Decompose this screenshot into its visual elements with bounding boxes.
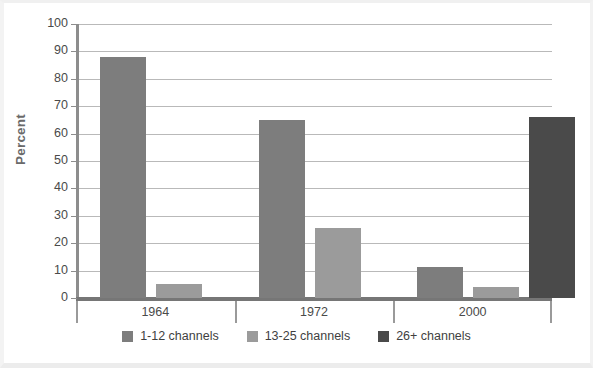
y-axis-tick-label: 0 xyxy=(28,291,68,304)
gridline xyxy=(79,188,552,189)
gridline xyxy=(79,134,552,135)
legend-item[interactable]: 26+ channels xyxy=(378,330,471,343)
y-axis-tick-mark xyxy=(71,188,77,189)
bar xyxy=(259,120,305,298)
y-axis-tick-label: 10 xyxy=(28,264,68,277)
x-axis-category-label: 1972 xyxy=(235,301,394,323)
category-divider xyxy=(393,301,395,323)
y-axis-tick-mark xyxy=(71,79,77,80)
gridline xyxy=(79,51,552,52)
y-axis-tick-label: 30 xyxy=(28,209,68,222)
legend-swatch-icon xyxy=(247,331,258,342)
legend-label: 13-25 channels xyxy=(265,330,350,343)
y-axis-tick-label: 50 xyxy=(28,154,68,167)
y-axis-tick-mark xyxy=(71,106,77,107)
bar xyxy=(417,267,463,299)
legend-item[interactable]: 13-25 channels xyxy=(247,330,350,343)
y-axis-tick-label: 90 xyxy=(28,44,68,57)
chart-page: Percent 1009080706050403020100 196419722… xyxy=(0,0,593,368)
x-axis-category-label: 1964 xyxy=(76,301,235,323)
bar xyxy=(100,57,146,298)
legend-label: 1-12 channels xyxy=(140,330,219,343)
bar xyxy=(156,284,202,298)
y-axis-line xyxy=(76,24,79,301)
y-axis-tick-label: 70 xyxy=(28,99,68,112)
plot-area: 1009080706050403020100 xyxy=(76,24,552,301)
y-axis-tick-mark xyxy=(71,24,77,25)
bar xyxy=(529,117,575,298)
chart-legend: 1-12 channels13-25 channels26+ channels xyxy=(0,330,593,343)
bar xyxy=(473,287,519,298)
legend-label: 26+ channels xyxy=(396,330,471,343)
gridline xyxy=(79,216,552,217)
y-axis-tick-label: 40 xyxy=(28,181,68,194)
legend-swatch-icon xyxy=(122,331,133,342)
bar-chart: Percent 1009080706050403020100 196419722… xyxy=(0,0,593,368)
y-axis-tick-mark xyxy=(71,134,77,135)
gridline xyxy=(79,79,552,80)
gridline xyxy=(79,161,552,162)
x-axis-category-label: 2000 xyxy=(393,301,552,323)
gridline xyxy=(79,106,552,107)
y-axis-tick-mark xyxy=(71,271,77,272)
y-axis-tick-label: 80 xyxy=(28,72,68,85)
y-axis-title: Percent xyxy=(13,100,28,180)
y-axis-tick-mark xyxy=(71,51,77,52)
y-axis-tick-label: 20 xyxy=(28,236,68,249)
bar xyxy=(315,228,361,298)
y-axis-tick-mark xyxy=(71,243,77,244)
legend-item[interactable]: 1-12 channels xyxy=(122,330,219,343)
y-axis-tick-label: 100 xyxy=(28,17,68,30)
y-axis-tick-mark xyxy=(71,161,77,162)
category-divider xyxy=(235,301,237,323)
y-axis-tick-mark xyxy=(71,216,77,217)
x-axis-categories: 196419722000 xyxy=(76,301,552,323)
legend-swatch-icon xyxy=(378,331,389,342)
y-axis-tick-mark xyxy=(71,298,77,299)
gridline xyxy=(79,24,552,25)
y-axis-tick-label: 60 xyxy=(28,127,68,140)
